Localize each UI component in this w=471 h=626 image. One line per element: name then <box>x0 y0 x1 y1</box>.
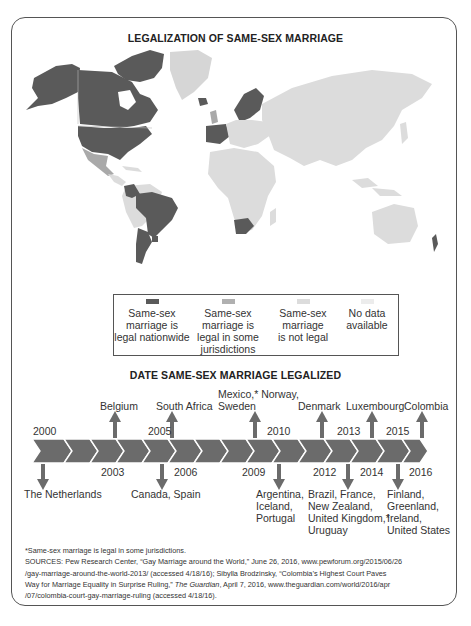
event-argentina: Argentina, Iceland, Portugal <box>256 488 304 524</box>
arrow-up-2003 <box>109 411 121 438</box>
arrow-down-2010 <box>277 464 281 474</box>
event-line: Finland, <box>387 488 450 500</box>
event-denmark: Denmark <box>298 400 341 412</box>
legend-not-legal: Same-sex marriage is not legal <box>270 299 336 343</box>
legend-line: marriage is <box>192 319 264 331</box>
greenland <box>170 50 212 100</box>
legend-line: Same-sex <box>192 307 264 319</box>
year-2013: 2013 <box>337 425 360 437</box>
sources-line-4: /07/colombia-court-gay-marriage-ruling (… <box>25 590 445 601</box>
arrow-down-2013 <box>346 464 350 474</box>
arrow-down-2015 <box>396 464 400 474</box>
event-mexico-norway-sweden-1: Mexico,* Norway, <box>218 388 299 400</box>
event-netherlands: The Netherlands <box>24 488 102 500</box>
legend-line: Same-sex <box>270 307 336 319</box>
event-brazil-france: Brazil, France, New Zealand, United King… <box>308 488 390 536</box>
arrow-down-2005 <box>160 464 164 474</box>
map-legend: Same-sex marriage is legal nationwide Sa… <box>113 294 399 356</box>
legend-line: marriage <box>270 319 336 331</box>
event-line: Argentina, <box>256 488 304 500</box>
legend-line: is not legal <box>270 331 336 343</box>
sources-line-1: SOURCES: Pew Research Center, “Gay Marri… <box>25 556 445 567</box>
event-line: Portugal <box>256 512 304 524</box>
arrow-up-2014 <box>366 411 378 438</box>
year-2005: 2005 <box>148 425 171 437</box>
event-belgium: Belgium <box>100 400 138 412</box>
event-line: Greenland, <box>387 500 450 512</box>
legend-line: Same-sex <box>114 307 190 319</box>
legend-no-data: No data available <box>338 299 396 331</box>
event-finland-us: Finland, Greenland, Ireland, United Stat… <box>387 488 450 536</box>
year-2015: 2015 <box>386 425 409 437</box>
event-line: United Kingdom,* <box>308 512 390 524</box>
event-line: Iceland, <box>256 500 304 512</box>
event-line: Ireland, <box>387 512 450 524</box>
event-line: United States <box>387 524 450 536</box>
legend-line: No data <box>338 307 396 319</box>
event-line: Brazil, France, <box>308 488 390 500</box>
arrow-up-2009 <box>249 411 261 438</box>
year-2012: 2012 <box>313 466 336 478</box>
sources-line-2: /gay-marriage-around-the-world-2013/ (ac… <box>25 568 445 579</box>
timeline-title: DATE SAME-SEX MARRIAGE LEGALIZED <box>0 369 471 381</box>
arrow-up-2012 <box>316 411 328 438</box>
event-south-africa: South Africa <box>156 400 213 412</box>
year-2010: 2010 <box>267 425 290 437</box>
year-2009: 2009 <box>242 466 265 478</box>
legal-nationwide-swatch <box>146 299 159 304</box>
world-map <box>22 48 452 266</box>
arrow-down-2000 <box>41 464 45 474</box>
footnote: *Same-sex marriage is legal in some juri… <box>25 545 445 556</box>
year-2016: 2016 <box>409 466 432 478</box>
legend-line: legal nationwide <box>114 331 190 343</box>
no-data-swatch <box>361 299 374 304</box>
event-mexico-norway-sweden-2: Sweden <box>218 400 256 412</box>
publication-name: The Guardian <box>175 580 220 589</box>
legend-legal-some: Same-sex marriage is legal in some juris… <box>192 299 264 355</box>
year-2006: 2006 <box>174 466 197 478</box>
legend-line: available <box>338 319 396 331</box>
legend-line: jurisdictions <box>192 343 264 355</box>
sources-text: Way for Marriage Equality in Surprise Ru… <box>25 580 175 589</box>
legend-legal-nationwide: Same-sex marriage is legal nationwide <box>114 299 190 343</box>
sources-text: , April 7, 2016, www.theguardian.com/wor… <box>219 580 390 589</box>
legend-line: legal in some <box>192 331 264 343</box>
event-line: Uruguay <box>308 524 390 536</box>
arrow-up-2016 <box>416 411 428 438</box>
event-colombia: Colombia <box>404 400 448 412</box>
year-2000: 2000 <box>33 425 56 437</box>
map-title: LEGALIZATION OF SAME-SEX MARRIAGE <box>0 32 471 44</box>
legal-some-swatch <box>222 299 235 304</box>
source-notes: *Same-sex marriage is legal in some juri… <box>25 545 445 601</box>
legend-line: marriage is <box>114 319 190 331</box>
sources-line-3: Way for Marriage Equality in Surprise Ru… <box>25 579 445 590</box>
event-luxembourg: Luxembourg <box>346 400 404 412</box>
not-legal-swatch <box>297 299 310 304</box>
event-canada-spain: Canada, Spain <box>131 488 200 500</box>
year-2014: 2014 <box>360 466 383 478</box>
year-2003: 2003 <box>101 466 124 478</box>
event-line: New Zealand, <box>308 500 390 512</box>
